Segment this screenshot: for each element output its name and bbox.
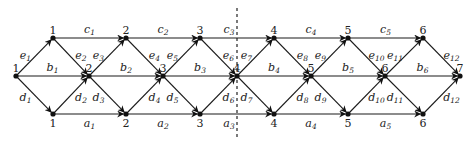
edge-label-b4: b4 [268, 61, 280, 75]
edge-label-d6: d6 [223, 91, 235, 105]
node-top-3-label: 3 [197, 24, 204, 37]
edge-label-b2: b2 [120, 61, 132, 75]
node-bottom-5-label: 5 [345, 117, 352, 130]
edge-label-d2: d2 [75, 91, 87, 105]
edge-label-e4: e4 [149, 49, 161, 63]
node-bottom-2-label: 2 [123, 117, 130, 130]
edge-label-e5: e5 [167, 49, 179, 63]
edge-label-a5: a5 [380, 117, 392, 131]
edge-label-c5: c5 [380, 23, 391, 37]
node-middle-4-label: 4 [234, 62, 241, 75]
node-bottom-4-label: 4 [271, 117, 278, 130]
edge-label-d10: d10 [368, 91, 385, 105]
node-bottom-5 [345, 111, 350, 116]
edge-label-a1: a1 [84, 117, 95, 131]
edge-label-c3: c3 [224, 23, 235, 37]
node-bottom-1 [50, 111, 55, 116]
edge-label-e9: e9 [315, 49, 327, 63]
node-top-1-label: 1 [50, 24, 57, 37]
node-middle-6-label: 6 [382, 62, 389, 75]
node-top-5-label: 5 [345, 24, 352, 37]
edge-label-b1: b1 [47, 61, 59, 75]
edge-label-d12: d12 [443, 91, 460, 105]
node-bottom-2 [123, 111, 128, 116]
graph-canvas: 1234561234561234567 c1c2c3c4c5a1a2a3a4a5… [0, 0, 472, 144]
edge-label-a3: a3 [223, 117, 235, 131]
node-top-6-label: 6 [420, 24, 427, 37]
edge-label-e10: e10 [368, 49, 384, 63]
node-middle-5-label: 5 [308, 62, 315, 75]
edge-label-e11: e11 [387, 49, 403, 63]
edge-label-c2: c2 [158, 23, 169, 37]
edge-label-d1: d1 [20, 91, 32, 105]
edge-labels: c1c2c3c4c5a1a2a3a4a5b1b2b3b4b5b6e1e2e3e4… [20, 23, 460, 131]
node-bottom-4 [271, 111, 276, 116]
edge-label-e1: e1 [20, 49, 31, 63]
edge-label-d9: d9 [315, 91, 327, 105]
node-bottom-1-label: 1 [50, 117, 57, 130]
edge-label-d4: d4 [149, 91, 161, 105]
edge-label-d11: d11 [387, 91, 404, 105]
edge-label-d7: d7 [241, 91, 253, 105]
edge-label-b6: b6 [417, 61, 429, 75]
edge-label-c4: c4 [306, 23, 317, 37]
node-middle-2-label: 2 [86, 62, 93, 75]
edge-label-b5: b5 [342, 61, 354, 75]
edge-label-a2: a2 [157, 117, 169, 131]
node-middle-1-label: 1 [13, 62, 20, 75]
edge-label-e7: e7 [241, 49, 253, 63]
edge-label-e2: e2 [75, 49, 87, 63]
node-top-2-label: 2 [123, 24, 130, 37]
edge-label-e12: e12 [443, 49, 459, 63]
node-bottom-6 [420, 111, 425, 116]
edge-label-d8: d8 [297, 91, 309, 105]
node-top-4-label: 4 [271, 24, 278, 37]
node-bottom-3-label: 3 [197, 117, 204, 130]
node-bottom-3 [197, 111, 202, 116]
edge-label-c1: c1 [84, 23, 95, 37]
edge-label-e3: e3 [93, 49, 105, 63]
edge-label-b3: b3 [194, 61, 206, 75]
node-bottom-6-label: 6 [420, 117, 427, 130]
edge-label-d3: d3 [93, 91, 105, 105]
edge-label-d5: d5 [167, 91, 179, 105]
edge-label-a4: a4 [305, 117, 317, 131]
edge-label-e6: e6 [223, 49, 235, 63]
node-middle-3-label: 3 [160, 62, 167, 75]
edge-label-e8: e8 [297, 49, 309, 63]
node-middle-7-label: 7 [457, 62, 464, 75]
